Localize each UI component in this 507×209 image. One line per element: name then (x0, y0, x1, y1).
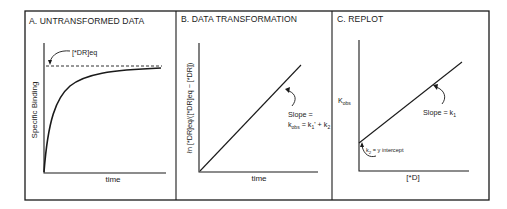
panel-a: A. UNTRANSFORMED DATA [*DR]eq time Speci… (29, 16, 166, 184)
panel-c-title: C. REPLOT (337, 14, 384, 24)
panel-a-callout-arrow (50, 51, 70, 62)
panel-a-annotation: [*DR]eq (72, 48, 97, 57)
panel-a-binding-curve (44, 68, 161, 172)
panel-c: C. REPLOT Kobs Slope = k1 k2 = y interce… (337, 14, 469, 182)
panel-a-title: A. UNTRANSFORMED DATA (29, 16, 145, 26)
panel-a-xlabel: time (105, 175, 121, 184)
panel-b-slope-label: Slope = (288, 110, 313, 119)
panel-c-slope-label: Slope = k1 (423, 108, 456, 118)
arrowhead-icon (360, 142, 364, 147)
panel-c-slope-callout-arrow (436, 87, 445, 104)
arrowhead-icon (48, 60, 52, 65)
arrowhead-icon (433, 84, 438, 90)
arrowhead-icon (285, 87, 290, 93)
panel-c-ylabel: Kobs (338, 96, 351, 106)
panel-b-xlabel: time (251, 174, 267, 183)
panel-b: B. DATA TRANSFORMATION Slope = kobs = k1… (181, 14, 330, 183)
panel-b-title: B. DATA TRANSFORMATION (181, 14, 297, 24)
panel-b-ylabel: ℓn [*DR]eq/([*DR]eq − [*DR]) (185, 63, 194, 155)
panel-c-xlabel: [*D] (406, 173, 419, 182)
panel-c-intercept-label: k2 = y intercept (366, 147, 404, 155)
panel-b-slope-formula: kobs = k1' + k2 (288, 120, 330, 130)
figure: A. UNTRANSFORMED DATA [*DR]eq time Speci… (0, 0, 507, 209)
panel-b-callout-arrow (289, 91, 295, 106)
panel-b-line (200, 65, 301, 171)
panel-a-ylabel: Specific Binding (30, 82, 39, 139)
panel-a-axes (44, 43, 166, 173)
panel-c-line (359, 62, 462, 143)
